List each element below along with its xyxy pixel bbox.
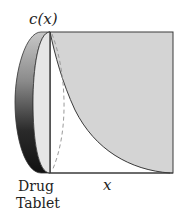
concentration-label: c(x) <box>29 12 58 27</box>
drug-tablet-label-line1: Drug <box>16 178 56 195</box>
drug-tablet-label-line2: Tablet <box>16 195 56 212</box>
concentration-region <box>50 32 173 173</box>
drug-tablet-label: Drug Tablet <box>16 178 56 212</box>
distance-label: x <box>103 178 111 193</box>
